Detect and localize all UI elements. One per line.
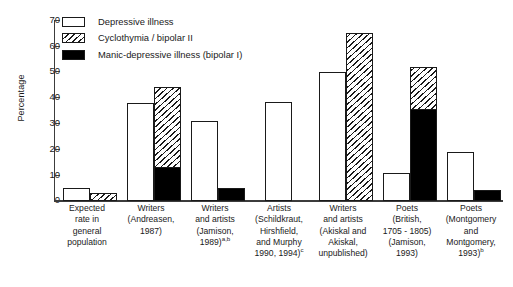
- bar-group-writers-artists-akiskal: [311, 20, 375, 201]
- category-line: Writers: [183, 203, 247, 214]
- category-line: Poets: [375, 203, 439, 214]
- x-axis-category-labels: Expected rate in general population Writ…: [55, 203, 503, 287]
- category-label-poets-montgomery: Poets (Montgomery and Montgomery, 1993)b: [439, 203, 503, 259]
- category-line: population: [55, 237, 119, 248]
- footnote-marker: a,b: [222, 235, 231, 242]
- category-line: Montgomery,: [439, 237, 503, 248]
- bar-manic-depressive-illness: [218, 188, 245, 201]
- category-line-with-footnote: 1989)a,b: [183, 237, 247, 248]
- bar-manic-depressive-illness: [474, 190, 501, 201]
- bar-group-poets-british: [375, 20, 439, 201]
- category-line-with-footnote: 1990, 1994)c: [247, 248, 311, 259]
- footnote-marker: c: [300, 246, 303, 253]
- bar-group-expected-rate: [55, 20, 119, 201]
- category-line: and artists: [311, 214, 375, 225]
- category-line: Hirshfield,: [247, 226, 311, 237]
- category-line: (Akiskal and: [311, 226, 375, 237]
- category-line: Akiskal,: [311, 237, 375, 248]
- category-label-writers-artists-jamison: Writers and artists (Jamison, 1989)a,b: [183, 203, 247, 248]
- category-line: Expected: [55, 203, 119, 214]
- category-label-expected-rate: Expected rate in general population: [55, 203, 119, 248]
- category-line: (British,: [375, 214, 439, 225]
- category-line: 1705 - 1805): [375, 226, 439, 237]
- category-line: Artists: [247, 203, 311, 214]
- bar-depressive-illness: [319, 72, 346, 201]
- category-line: (Schildkraut,: [247, 214, 311, 225]
- category-line: general: [55, 226, 119, 237]
- category-line: (Andreasen,: [119, 214, 183, 225]
- bar-depressive-illness: [447, 152, 474, 201]
- bar-depressive-illness: [265, 102, 292, 201]
- category-line: (Jamison,: [183, 226, 247, 237]
- category-line: unpublished): [311, 248, 375, 259]
- bar-group-writers-artists-jamison: [183, 20, 247, 201]
- category-label-writers-artists-akiskal: Writers and artists (Akiskal and Akiskal…: [311, 203, 375, 259]
- bar-depressive-illness: [383, 173, 410, 201]
- category-line: and artists: [183, 214, 247, 225]
- category-line: rate in: [55, 214, 119, 225]
- footnote-marker: b: [480, 246, 483, 253]
- category-line-with-footnote: 1993)b: [439, 248, 503, 259]
- bar-cyclothymia-bipolar-ii: [90, 193, 117, 201]
- bar-group-artists-schildkraut: [247, 20, 311, 201]
- segment-manic-depressive-illness: [410, 109, 437, 201]
- bar-cyclothymia-bipolar-ii: [154, 87, 181, 201]
- bar-depressive-illness: [191, 121, 218, 201]
- plot-area: [55, 20, 503, 201]
- bar-cyclothymia-bipolar-ii: [410, 67, 437, 201]
- category-line: and: [439, 226, 503, 237]
- category-line: 1993): [375, 248, 439, 259]
- category-line: (Jamison,: [375, 237, 439, 248]
- bar-depressive-illness: [127, 103, 154, 201]
- bar-group-writers-andreasen: [119, 20, 183, 201]
- category-line: Writers: [311, 203, 375, 214]
- category-label-artists-schildkraut: Artists (Schildkraut, Hirshfield, and Mu…: [247, 203, 311, 259]
- category-line: 1987): [119, 226, 183, 237]
- bar-depressive-illness: [63, 188, 90, 201]
- category-line: Poets: [439, 203, 503, 214]
- bar-chart: Depressive illness Cyclothymia / bipolar…: [0, 0, 513, 287]
- category-line: (Montgomery: [439, 214, 503, 225]
- segment-manic-depressive-illness: [154, 167, 181, 201]
- category-label-writers-andreasen: Writers (Andreasen, 1987): [119, 203, 183, 237]
- y-axis-label: Percentage: [16, 38, 26, 158]
- category-line: Writers: [119, 203, 183, 214]
- category-label-poets-british: Poets (British, 1705 - 1805) (Jamison, 1…: [375, 203, 439, 259]
- bar-group-poets-montgomery: [439, 20, 503, 201]
- bar-cyclothymia-bipolar-ii: [346, 33, 373, 201]
